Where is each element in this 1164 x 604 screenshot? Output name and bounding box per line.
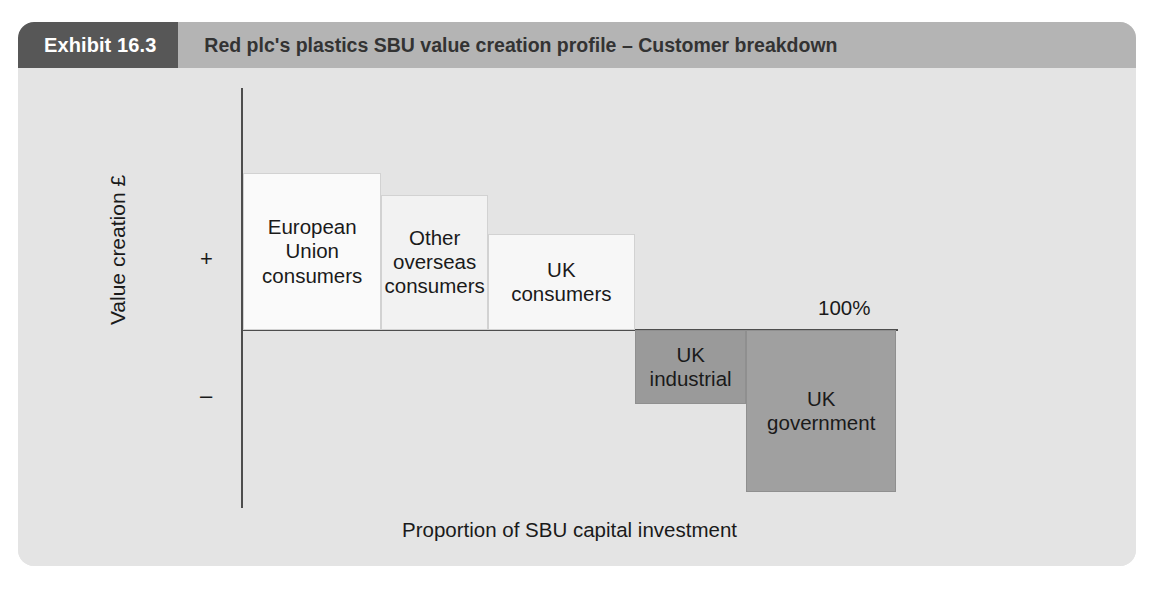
exhibit-title: Red plc's plastics SBU value creation pr… — [178, 22, 837, 68]
bar-uk-consumers: UKconsumers — [488, 234, 635, 330]
bar-label: Otheroverseasconsumers — [381, 226, 489, 299]
bar-label: EuropeanUnionconsumers — [258, 215, 366, 288]
exhibit-panel: Exhibit 16.3 Red plc's plastics SBU valu… — [18, 22, 1136, 566]
bar-label: UKconsumers — [507, 258, 615, 306]
chart-plot-area: Value creation £ + – 100% Proportion of … — [18, 68, 1136, 566]
bar-other-overseas-consumers: Otheroverseasconsumers — [381, 195, 487, 330]
y-axis-tick-positive: + — [200, 246, 213, 272]
y-axis-title: Value creation £ — [106, 140, 130, 360]
bar-label: UKindustrial — [646, 343, 736, 391]
exhibit-header: Exhibit 16.3 Red plc's plastics SBU valu… — [18, 22, 1136, 68]
bar-uk-industrial: UKindustrial — [635, 330, 747, 404]
exhibit-number-badge: Exhibit 16.3 — [18, 22, 178, 68]
bar-european-union-consumers: EuropeanUnionconsumers — [243, 173, 381, 330]
bar-label: UKgovernment — [763, 387, 879, 435]
bar-uk-government: UKgovernment — [746, 330, 896, 492]
x-axis-title: Proportion of SBU capital investment — [241, 518, 898, 542]
y-axis-tick-negative: – — [200, 383, 212, 409]
x-axis-max-label: 100% — [818, 296, 870, 320]
